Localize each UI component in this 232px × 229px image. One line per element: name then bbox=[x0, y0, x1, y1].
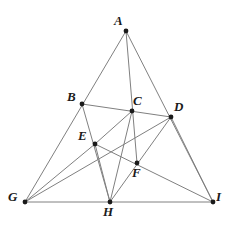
segment-G-D bbox=[25, 117, 171, 202]
vertex-point-g bbox=[23, 200, 28, 205]
point-layer bbox=[23, 29, 216, 205]
vertex-label-d: D bbox=[174, 100, 183, 113]
segment-layer bbox=[25, 31, 213, 202]
vertex-label-c: C bbox=[133, 94, 142, 107]
vertex-label-g: G bbox=[8, 190, 17, 203]
geometry-canvas bbox=[0, 0, 232, 229]
vertex-label-a: A bbox=[114, 14, 123, 27]
geometry-figure: ABCDEFGHI bbox=[0, 0, 232, 229]
vertex-label-e: E bbox=[78, 129, 87, 142]
segment-C-E bbox=[95, 111, 132, 144]
segment-B-D bbox=[82, 104, 171, 117]
vertex-point-d bbox=[169, 115, 174, 120]
segment-D-I bbox=[171, 117, 213, 202]
vertex-label-i: I bbox=[216, 190, 221, 203]
vertex-label-f: F bbox=[132, 166, 141, 179]
segment-C-H bbox=[110, 111, 132, 202]
vertex-point-c bbox=[130, 109, 135, 114]
vertex-point-b bbox=[80, 102, 85, 107]
segment-E-I bbox=[95, 144, 213, 202]
segment-A-G bbox=[25, 31, 126, 202]
segment-E-H bbox=[95, 144, 110, 202]
vertex-label-h: H bbox=[103, 205, 113, 218]
vertex-point-e bbox=[93, 142, 98, 147]
segment-G-E bbox=[25, 144, 95, 202]
vertex-point-a bbox=[124, 29, 129, 34]
vertex-label-b: B bbox=[67, 90, 76, 103]
segment-D-H bbox=[110, 117, 171, 202]
vertex-point-i bbox=[211, 200, 216, 205]
